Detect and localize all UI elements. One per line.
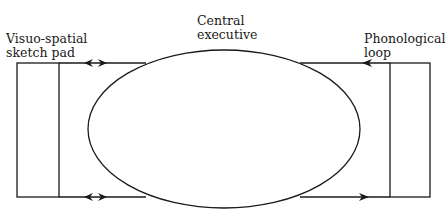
visuo-spatial-box bbox=[17, 63, 59, 197]
working-memory-diagram: Visuo-spatial sketch pad Central executi… bbox=[0, 0, 447, 218]
phonological-loop-box bbox=[390, 63, 430, 197]
diagram-shapes bbox=[0, 0, 447, 218]
central-executive-ellipse bbox=[88, 50, 360, 208]
